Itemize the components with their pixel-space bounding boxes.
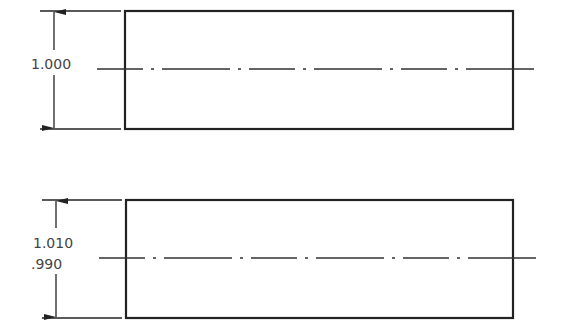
dimension-label: 1.000 [31,56,71,72]
lower-limit-label: .990 [31,256,62,272]
upper-limit-label: 1.010 [33,235,73,251]
part-outline [125,11,513,129]
view-basic-dimension: 1.000 [31,11,540,129]
view-limit-dimension: 1.010 .990 [31,200,541,318]
part-outline [126,200,513,318]
engineering-drawing: 1.000 1.010 .990 [0,0,565,334]
